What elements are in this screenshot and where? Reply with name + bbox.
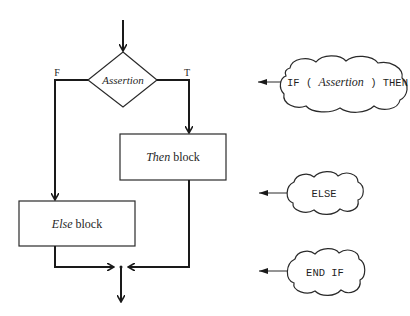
else-annotation: ELSE	[259, 172, 363, 215]
true-label: T	[184, 67, 190, 78]
true-branch-line	[157, 80, 189, 133]
endif-annotation: END IF	[259, 249, 365, 296]
decision-label: Assertion	[101, 74, 144, 86]
svg-text:Then block: Then block	[146, 150, 200, 164]
then-merge-line	[128, 180, 189, 267]
else-merge-line	[55, 246, 114, 267]
false-label: F	[54, 67, 60, 78]
else-block-label: block	[73, 217, 103, 231]
else-block: Else block	[19, 201, 135, 246]
flowchart: Assertion F T Then block Else block IF (…	[0, 0, 410, 316]
endif-annotation-text: END IF	[306, 267, 344, 279]
then-block: Then block	[120, 134, 226, 180]
then-block-italic: Then	[146, 150, 170, 164]
else-block-italic: Else	[51, 217, 73, 231]
svg-text:Else block: Else block	[51, 217, 102, 231]
else-annotation-text: ELSE	[311, 188, 336, 200]
then-block-label: block	[170, 150, 200, 164]
false-branch-line	[55, 80, 88, 200]
svg-text:IF ( Assertion ) THEN: IF ( Assertion ) THEN	[287, 75, 408, 89]
decision-diamond: Assertion	[88, 52, 157, 107]
if-then-annotation: IF ( Assertion ) THEN	[258, 56, 408, 112]
